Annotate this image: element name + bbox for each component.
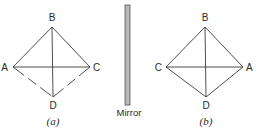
edge-a-AD-dashed	[13, 67, 53, 97]
vertex-label-a-B: B	[49, 12, 56, 23]
edge-b-AD	[206, 67, 243, 97]
edge-b-BA	[205, 27, 243, 67]
edge-a-BD	[52, 27, 53, 97]
edge-a-BC	[52, 27, 90, 67]
mirror-image-diagram: B A C D (a) Mirror B C A D (b)	[0, 0, 259, 131]
panel-b: B C A D (b)	[155, 12, 253, 128]
caption-b: (b)	[200, 115, 213, 128]
vertex-label-b-C: C	[155, 62, 162, 73]
vertex-label-b-A: A	[246, 62, 253, 73]
edge-b-BD	[205, 27, 206, 97]
panel-a: B A C D (a)	[1, 12, 100, 128]
vertex-label-b-B: B	[202, 12, 209, 23]
edge-b-CD	[166, 67, 206, 97]
vertex-label-a-A: A	[1, 62, 8, 73]
caption-a: (a)	[47, 115, 60, 128]
vertex-label-a-C: C	[93, 62, 100, 73]
edge-a-CD-dashed	[53, 67, 90, 97]
mirror: Mirror	[117, 5, 142, 118]
edge-a-BA	[13, 27, 52, 67]
mirror-bar	[125, 5, 130, 105]
mirror-label: Mirror	[117, 107, 142, 118]
vertex-label-a-D: D	[49, 100, 56, 111]
edge-b-BC	[166, 27, 205, 67]
vertex-label-b-D: D	[202, 100, 209, 111]
